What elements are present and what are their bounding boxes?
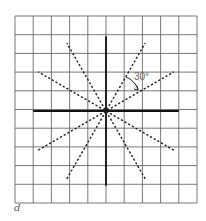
angle-label: 30° <box>134 71 149 82</box>
figure-label: d <box>14 202 20 213</box>
angle-marker: 30° <box>126 71 149 90</box>
rotation-diagram: 30° <box>0 0 206 221</box>
axes <box>33 36 179 186</box>
